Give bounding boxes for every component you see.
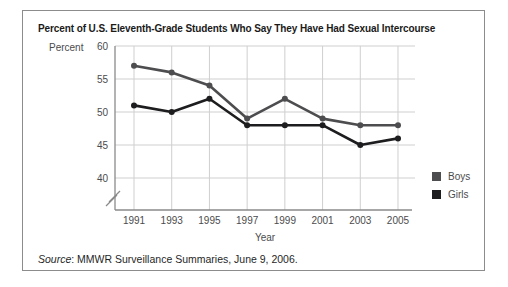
x-tick-label: 1999	[274, 215, 297, 226]
girls-point	[357, 142, 363, 148]
boys-point	[395, 122, 401, 128]
legend-row-girls: Girls	[432, 185, 470, 203]
x-tick-label: 1993	[161, 215, 184, 226]
y-tick-label: 45	[97, 140, 109, 151]
boys-point	[320, 116, 326, 122]
legend-label-girls: Girls	[448, 189, 469, 200]
x-tick-label: 2001	[311, 215, 334, 226]
girls-point	[206, 96, 212, 102]
girls-point	[395, 135, 401, 141]
boys-point	[244, 116, 250, 122]
x-axis-title: Year	[115, 232, 415, 243]
y-tick-label: 40	[97, 173, 109, 184]
y-tick-label: 60	[97, 41, 109, 52]
girls-point	[244, 122, 250, 128]
source-word: Source	[38, 253, 71, 265]
x-tick-label: 2005	[387, 215, 410, 226]
x-tick-label: 2003	[349, 215, 372, 226]
source-line: Source: MMWR Surveillance Summaries, Jun…	[38, 253, 476, 265]
legend: Boys Girls	[432, 167, 470, 203]
screenshot-stage: Percent of U.S. Eleventh-Grade Students …	[0, 0, 508, 287]
source-text: : MMWR Surveillance Summaries, June 9, 2…	[71, 253, 297, 265]
girls-point	[131, 102, 137, 108]
legend-row-boys: Boys	[432, 167, 470, 185]
y-tick-label: 55	[97, 74, 109, 85]
boys-point	[206, 83, 212, 89]
boys-point	[357, 122, 363, 128]
x-tick-label: 1995	[198, 215, 221, 226]
boys-swatch-icon	[432, 172, 441, 181]
x-tick-label: 1997	[236, 215, 259, 226]
boys-point	[131, 63, 137, 69]
girls-point	[169, 109, 175, 115]
boys-point	[169, 69, 175, 75]
legend-label-boys: Boys	[448, 171, 470, 182]
y-tick-label: 50	[97, 107, 109, 118]
girls-point	[282, 122, 288, 128]
boys-point	[282, 96, 288, 102]
girls-point	[320, 122, 326, 128]
girls-line	[134, 99, 398, 145]
figure-box: Percent of U.S. Eleventh-Grade Students …	[22, 10, 485, 271]
girls-swatch-icon	[432, 190, 441, 199]
x-tick-label: 1991	[123, 215, 146, 226]
